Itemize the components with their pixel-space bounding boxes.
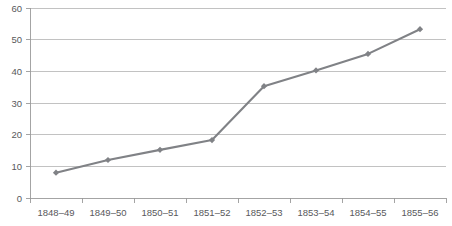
data-point-1848–49	[53, 170, 59, 176]
x-axis-labels: 1848–49 1849–50 1850–51 1851–52 1852–53 …	[38, 207, 439, 218]
x-tick-label-1851-52: 1851–52	[194, 207, 231, 218]
y-tick-label-50: 50	[11, 34, 22, 45]
data-point-1849–50	[105, 157, 111, 163]
data-point-1850–51	[157, 147, 163, 153]
x-axis-ticks	[30, 198, 446, 203]
x-tick-label-1848-49: 1848–49	[38, 207, 75, 218]
x-tick-label-1855-56: 1855–56	[402, 207, 439, 218]
y-tick-label-10: 10	[11, 161, 22, 172]
x-tick-label-1854-55: 1854–55	[350, 207, 387, 218]
series-markers	[53, 26, 423, 176]
series-line	[56, 29, 420, 172]
line-chart: 60 50 40 30 20 10 0 1848–49 1849–50 1850…	[0, 0, 452, 226]
x-tick-label-1850-51: 1850–51	[142, 207, 179, 218]
y-axis-ticks	[26, 8, 30, 198]
y-tick-label-20: 20	[11, 129, 22, 140]
x-tick-label-1853-54: 1853–54	[298, 207, 335, 218]
y-tick-label-40: 40	[11, 66, 22, 77]
chart-canvas: 60 50 40 30 20 10 0 1848–49 1849–50 1850…	[0, 0, 452, 226]
y-tick-label-0: 0	[17, 193, 22, 204]
x-tick-label-1849-50: 1849–50	[90, 207, 127, 218]
x-tick-label-1852-53: 1852–53	[246, 207, 283, 218]
data-point-1853–54	[313, 67, 319, 73]
gridlines	[30, 8, 446, 166]
series-group	[53, 26, 423, 176]
y-axis-labels: 60 50 40 30 20 10 0	[11, 3, 22, 204]
y-tick-label-30: 30	[11, 98, 22, 109]
y-tick-label-60: 60	[11, 3, 22, 14]
